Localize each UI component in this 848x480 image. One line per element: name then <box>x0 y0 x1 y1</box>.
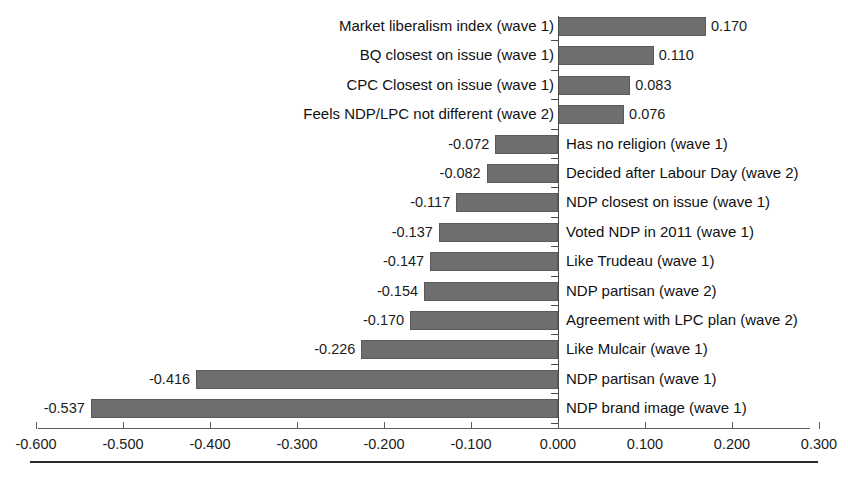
axis-tick <box>551 187 558 188</box>
bar-value-label: 0.076 <box>629 104 665 124</box>
x-axis-tick <box>732 422 733 429</box>
axis-tick <box>551 423 558 424</box>
bar <box>196 370 558 389</box>
bar-value-label: -0.537 <box>44 398 85 418</box>
bar-row: -0.082Decided after Labour Day (wave 2) <box>0 159 848 188</box>
x-axis-tick-label: -0.200 <box>344 434 424 454</box>
x-axis-tick <box>819 422 820 429</box>
bar-value-label: -0.170 <box>363 310 404 330</box>
x-axis-tick-label: 0.200 <box>692 434 772 454</box>
category-label: NDP closest on issue (wave 1) <box>566 191 770 213</box>
bar-value-label: -0.117 <box>410 192 450 212</box>
category-label: Like Trudeau (wave 1) <box>566 250 714 272</box>
x-axis-line <box>38 428 810 429</box>
bar-row: -0.117NDP closest on issue (wave 1) <box>0 188 848 217</box>
bar-row: -0.137Voted NDP in 2011 (wave 1) <box>0 218 848 247</box>
category-label: Feels NDP/LPC not different (wave 2) <box>303 103 554 125</box>
category-label: Voted NDP in 2011 (wave 1) <box>566 221 754 243</box>
axis-tick <box>551 99 558 100</box>
category-label: NDP partisan (wave 1) <box>566 368 717 390</box>
category-label: BQ closest on issue (wave 1) <box>360 44 554 66</box>
bar-row: -0.226Like Mulcair (wave 1) <box>0 335 848 364</box>
category-label: NDP partisan (wave 2) <box>566 280 717 302</box>
axis-tick <box>551 393 558 394</box>
category-label: Like Mulcair (wave 1) <box>566 338 708 360</box>
bar <box>487 164 558 183</box>
axis-tick <box>551 70 558 71</box>
x-axis-tick-label: 0.000 <box>518 434 598 454</box>
axis-tick <box>551 305 558 306</box>
bar-value-label: -0.154 <box>377 281 418 301</box>
x-axis-tick-label: 0.100 <box>605 434 685 454</box>
bar-row: -0.072Has no religion (wave 1) <box>0 130 848 159</box>
bar-value-label: -0.416 <box>149 369 190 389</box>
bar <box>361 340 558 359</box>
bar-value-label: -0.072 <box>448 134 489 154</box>
x-axis-tick <box>558 422 559 429</box>
x-axis-tick-label: -0.500 <box>83 434 163 454</box>
category-label: Decided after Labour Day (wave 2) <box>566 162 799 184</box>
bar-value-label: 0.110 <box>659 45 694 65</box>
bottom-divider-rule <box>30 461 818 463</box>
axis-tick <box>551 246 558 247</box>
x-axis-tick-label: -0.400 <box>170 434 250 454</box>
x-axis-tick <box>645 422 646 429</box>
axis-tick <box>551 158 558 159</box>
x-axis-tick <box>36 422 37 429</box>
category-label: NDP brand image (wave 1) <box>566 397 747 419</box>
axis-tick <box>551 129 558 130</box>
bar-value-label: -0.082 <box>440 163 481 183</box>
bar-value-label: -0.226 <box>314 339 355 359</box>
bar-row: -0.154NDP partisan (wave 2) <box>0 277 848 306</box>
bar-row: -0.416NDP partisan (wave 1) <box>0 365 848 394</box>
bar <box>495 135 558 154</box>
zero-axis-line <box>558 16 559 428</box>
bar <box>410 311 558 330</box>
bar-value-label: -0.147 <box>383 251 424 271</box>
bar-value-label: -0.137 <box>392 222 433 242</box>
bar <box>430 252 558 271</box>
category-label: Has no religion (wave 1) <box>566 133 728 155</box>
bar <box>558 105 624 124</box>
axis-tick <box>551 334 558 335</box>
x-axis-tick <box>123 422 124 429</box>
x-axis-tick-label: -0.600 <box>0 434 76 454</box>
x-axis-tick-label: -0.100 <box>431 434 511 454</box>
bar <box>91 399 558 418</box>
x-axis-tick <box>210 422 211 429</box>
x-axis-tick <box>471 422 472 429</box>
bar-row: -0.147Like Trudeau (wave 1) <box>0 247 848 276</box>
axis-tick <box>551 40 558 41</box>
x-axis-tick-label: 0.300 <box>779 434 848 454</box>
x-axis-tick <box>384 422 385 429</box>
axis-tick <box>551 364 558 365</box>
bar <box>439 223 558 242</box>
bar-value-label: 0.170 <box>711 16 747 36</box>
category-label: Market liberalism index (wave 1) <box>339 15 554 37</box>
bar <box>558 17 706 36</box>
axis-tick <box>551 276 558 277</box>
bar <box>424 282 558 301</box>
bar-value-label: 0.083 <box>635 75 671 95</box>
bar <box>558 46 654 65</box>
x-axis-tick <box>297 422 298 429</box>
axis-tick <box>551 217 558 218</box>
category-label: Agreement with LPC plan (wave 2) <box>566 309 798 331</box>
bar-row: 0.170Market liberalism index (wave 1) <box>0 12 848 41</box>
bar-row: 0.083CPC Closest on issue (wave 1) <box>0 71 848 100</box>
bar-row: -0.170Agreement with LPC plan (wave 2) <box>0 306 848 335</box>
bar-rows: 0.170Market liberalism index (wave 1)0.1… <box>0 10 848 428</box>
bar-row: 0.110BQ closest on issue (wave 1) <box>0 41 848 70</box>
bar <box>558 76 630 95</box>
bar-row: -0.537NDP brand image (wave 1) <box>0 394 848 423</box>
plot-area: 0.170Market liberalism index (wave 1)0.1… <box>0 10 848 428</box>
bar <box>456 193 558 212</box>
bar-chart: 0.170Market liberalism index (wave 1)0.1… <box>0 0 848 480</box>
category-label: CPC Closest on issue (wave 1) <box>346 74 554 96</box>
bar-row: 0.076Feels NDP/LPC not different (wave 2… <box>0 100 848 129</box>
x-axis-tick-label: -0.300 <box>257 434 337 454</box>
